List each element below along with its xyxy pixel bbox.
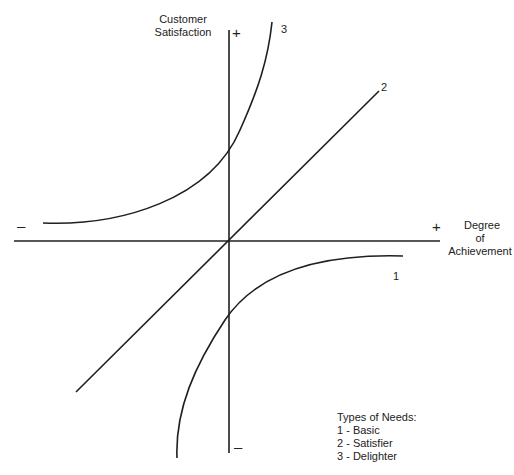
x-axis-positive-sign: + <box>432 219 441 234</box>
x-axis-title-line1: Degree <box>446 219 514 232</box>
y-axis-title-line2: Satisfaction <box>140 26 226 39</box>
legend-item-basic: 1 - Basic <box>337 424 417 437</box>
legend-item-satisfier: 2 - Satisfier <box>337 437 417 450</box>
legend-item-delighter: 3 - Delighter <box>337 450 417 463</box>
x-axis-title-line3: Achievement <box>446 245 514 258</box>
curve-label-basic: 1 <box>393 270 399 282</box>
curve-label-satisfier: 2 <box>381 81 387 93</box>
x-axis-title: Degree of Achievement <box>446 219 514 258</box>
y-axis-negative-sign: – <box>234 439 242 454</box>
curve-delighter <box>43 22 272 223</box>
y-axis-positive-sign: + <box>232 25 241 40</box>
legend-title: Types of Needs: <box>337 411 417 424</box>
x-axis-negative-sign: – <box>17 218 25 233</box>
x-axis-title-line2: of <box>446 232 514 245</box>
curve-label-delighter: 3 <box>281 23 287 35</box>
y-axis-title: Customer Satisfaction <box>140 13 226 39</box>
y-axis-title-line1: Customer <box>140 13 226 26</box>
kano-diagram: Customer Satisfaction + – + Degree of Ac… <box>0 0 514 475</box>
diagram-plot <box>0 0 514 475</box>
legend: Types of Needs: 1 - Basic 2 - Satisfier … <box>337 411 417 463</box>
